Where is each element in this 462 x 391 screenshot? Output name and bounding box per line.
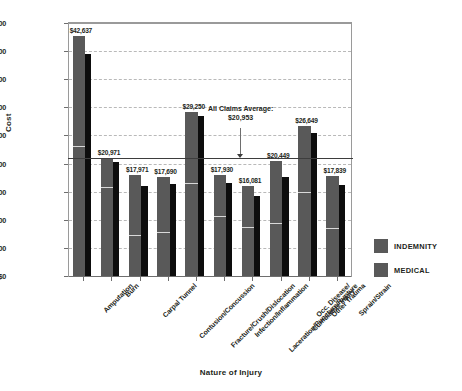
bar-group xyxy=(182,23,210,276)
bar-medical xyxy=(113,162,119,276)
average-annotation: All Claims Average:$20,953 xyxy=(208,104,273,123)
data-label: $17,839 xyxy=(323,167,345,174)
legend-swatch xyxy=(374,263,388,277)
average-arrow-head xyxy=(237,154,243,158)
y-tick-label: $35,000 xyxy=(0,75,6,84)
legend-label: INDEMNITY xyxy=(394,242,437,251)
data-label: $17,971 xyxy=(126,166,148,173)
bar-chart: Cost Nature of Injury $45,000$40,000$35,… xyxy=(0,0,462,391)
average-annotation-label: All Claims Average: xyxy=(208,104,273,113)
bar-medical xyxy=(141,186,147,276)
x-tick-mark xyxy=(309,277,310,281)
bar-group xyxy=(295,23,323,276)
bar-indemnity xyxy=(298,126,310,276)
data-label: $17,690 xyxy=(154,168,176,175)
data-label: $26,649 xyxy=(295,117,317,124)
bar-medical xyxy=(198,116,204,276)
x-tick-mark xyxy=(83,277,84,281)
bar-split-line xyxy=(185,183,197,184)
bar-indemnity xyxy=(73,36,85,276)
legend-swatch xyxy=(374,239,388,253)
y-tick-mark xyxy=(64,51,68,52)
bar-split-line xyxy=(214,216,226,217)
x-tick-mark xyxy=(252,277,253,281)
y-tick-mark xyxy=(64,23,68,24)
data-label: $42,637 xyxy=(70,27,92,34)
bar-indemnity xyxy=(185,112,197,276)
y-tick-mark xyxy=(64,135,68,136)
x-tick-mark xyxy=(281,277,282,281)
y-tick-label: $0 xyxy=(0,272,6,281)
x-tick-mark xyxy=(140,277,141,281)
legend-item-medical: MEDICAL xyxy=(374,263,437,277)
x-tick-mark xyxy=(196,277,197,281)
data-label: $17,930 xyxy=(211,166,233,173)
bar-group xyxy=(210,23,238,276)
bar-indemnity xyxy=(270,161,282,276)
y-tick-label: $25,000 xyxy=(0,131,6,140)
y-tick-mark xyxy=(64,248,68,249)
data-label: $29,250 xyxy=(182,103,204,110)
y-tick-label: $20,000 xyxy=(0,160,6,169)
x-axis-title: Nature of Injury xyxy=(0,368,462,377)
bar-split-line xyxy=(101,187,113,188)
y-tick-label: $10,000 xyxy=(0,216,6,225)
x-tick-mark xyxy=(224,277,225,281)
y-tick-label: $15,000 xyxy=(0,188,6,197)
bar-group xyxy=(238,23,266,276)
bar-group xyxy=(323,23,351,276)
y-tick-mark xyxy=(64,276,68,277)
bar-indemnity xyxy=(242,186,254,276)
legend-item-indemnity: INDEMNITY xyxy=(374,239,437,253)
average-line xyxy=(68,158,353,159)
y-tick-mark xyxy=(64,164,68,165)
bar-split-line xyxy=(157,232,169,233)
bar-indemnity xyxy=(214,175,226,276)
y-tick-mark xyxy=(64,192,68,193)
bar-medical xyxy=(311,133,317,276)
data-label: $16,081 xyxy=(239,177,261,184)
x-tick-label: Occ. Disease/Cumulative Injury xyxy=(305,282,355,332)
bar-split-line xyxy=(326,228,338,229)
average-arrow-shaft xyxy=(240,128,241,154)
bar-split-line xyxy=(270,223,282,224)
bar-split-line xyxy=(298,192,310,193)
y-tick-label: $40,000 xyxy=(0,47,6,56)
bar-split-line xyxy=(242,227,254,228)
bar-medical xyxy=(254,196,260,276)
bar-group xyxy=(266,23,294,276)
bar-indemnity xyxy=(157,177,169,276)
bar-split-line xyxy=(73,146,85,147)
bar-group xyxy=(154,23,182,276)
y-axis-title: Cost xyxy=(4,113,13,132)
x-tick-label: Carpal Tunnel xyxy=(161,282,198,319)
y-tick-label: $5,000 xyxy=(0,244,6,253)
y-tick-mark xyxy=(64,220,68,221)
bar-indemnity xyxy=(129,175,141,276)
bar-group xyxy=(125,23,153,276)
x-tick-mark xyxy=(111,277,112,281)
y-tick-label: $45,000 xyxy=(0,19,6,28)
bar-indemnity xyxy=(101,158,113,276)
bar-medical xyxy=(339,185,345,276)
bar-medical xyxy=(170,184,176,276)
bar-medical xyxy=(226,183,232,276)
y-tick-label: $30,000 xyxy=(0,103,6,112)
x-tick-mark xyxy=(337,277,338,281)
bar-medical xyxy=(85,54,91,276)
y-tick-mark xyxy=(64,107,68,108)
bar-medical xyxy=(282,177,288,276)
average-annotation-value: $20,953 xyxy=(208,113,273,122)
bar-indemnity xyxy=(326,176,338,276)
legend-label: MEDICAL xyxy=(394,266,430,275)
x-tick-mark xyxy=(168,277,169,281)
bar-group xyxy=(69,23,97,276)
bar-split-line xyxy=(129,235,141,236)
y-tick-mark xyxy=(64,79,68,80)
data-label: $20,971 xyxy=(98,149,120,156)
legend: INDEMNITYMEDICAL xyxy=(374,239,437,287)
